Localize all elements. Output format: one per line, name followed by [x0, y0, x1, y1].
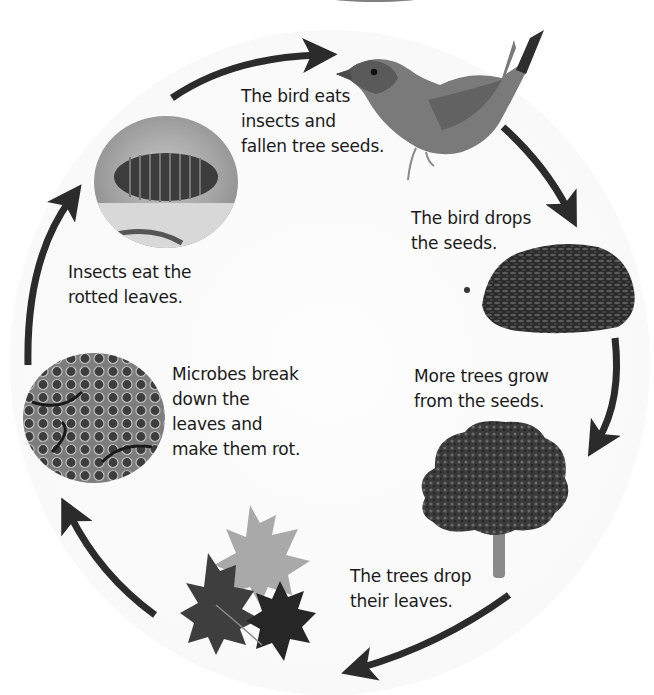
caption-bird: The bird eats insects and fallen tree se…	[241, 84, 384, 159]
caption-leaves: The trees drop their leaves.	[350, 564, 471, 614]
maple-leaves-photo	[180, 495, 330, 670]
caption-seeds: The bird drops the seeds.	[411, 206, 531, 256]
caption-tree: More trees grow from the seeds.	[414, 364, 549, 414]
tree-photo	[415, 418, 575, 583]
caption-microbes: Microbes break down the leaves and make …	[172, 362, 300, 462]
dropped-seed	[464, 287, 470, 293]
woodlouse-photo	[92, 115, 240, 250]
microbes-photo	[22, 352, 167, 485]
arrow-leaves-to-microbes	[70, 515, 155, 615]
caption-insect: Insects eat the rotted leaves.	[68, 260, 191, 310]
arrow-seeds-to-tree	[598, 338, 617, 440]
arrow-microbes-to-insect	[28, 200, 70, 365]
